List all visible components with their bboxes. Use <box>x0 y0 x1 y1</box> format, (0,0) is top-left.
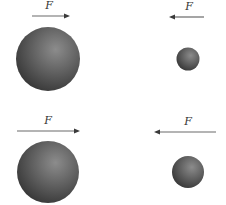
force-label: F <box>43 114 52 127</box>
force-mass-diagram: FFFF <box>0 0 226 205</box>
panel-top-right: F <box>169 0 204 71</box>
force-arrow-left-icon <box>169 15 204 20</box>
force-arrow-right-icon <box>32 14 70 19</box>
force-label: F <box>183 115 192 128</box>
panel-top-left: F <box>16 0 80 91</box>
medium-ball <box>172 156 204 188</box>
large-ball <box>17 141 79 203</box>
panel-bottom-left: F <box>17 114 80 203</box>
small-ball <box>177 48 200 71</box>
force-arrow-left-icon <box>154 130 216 135</box>
large-ball <box>16 27 80 91</box>
panels: FFFF <box>16 0 216 203</box>
force-label: F <box>184 0 193 13</box>
panel-bottom-right: F <box>154 115 216 188</box>
force-arrow-right-icon <box>17 129 80 134</box>
force-label: F <box>44 0 53 12</box>
